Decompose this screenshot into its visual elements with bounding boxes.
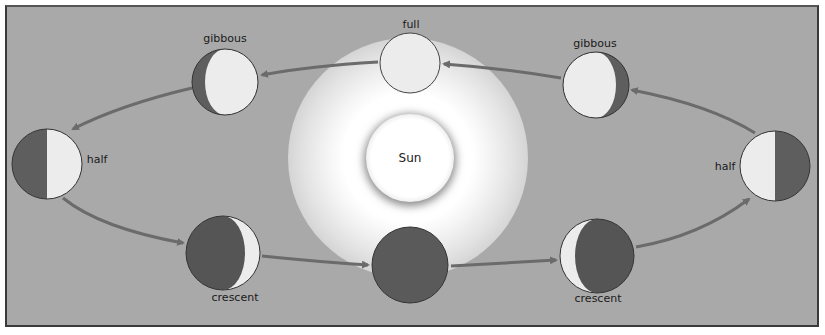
arrow-crescent-left-to-new <box>262 256 368 265</box>
sun-label: Sun <box>399 151 422 165</box>
label-crescent-right: crescent <box>575 292 622 305</box>
label-half-right: half <box>715 160 736 173</box>
label-gibbous-right: gibbous <box>573 37 616 50</box>
moon-half-right <box>740 131 810 201</box>
arrow-half-left-to-crescent-left <box>63 198 183 243</box>
arrow-full-to-gibbous-left <box>262 62 378 75</box>
moon-gibbous-left <box>192 49 258 115</box>
orbit-diagram <box>0 0 825 335</box>
arrow-new-to-crescent-right <box>451 260 556 266</box>
moon-crescent-right <box>560 219 634 293</box>
arrow-gibbous-left-to-half-left <box>73 88 192 129</box>
arrow-gibbous-right-to-full <box>444 64 561 78</box>
label-full: full <box>403 18 420 31</box>
label-half-left: half <box>87 153 108 166</box>
moon-full <box>380 33 440 93</box>
moon-new <box>372 227 448 303</box>
moon-half-left <box>12 129 82 199</box>
moon-gibbous-right <box>563 52 629 118</box>
arrow-half-right-to-gibbous-right <box>632 90 755 133</box>
arrow-crescent-right-to-half-right <box>636 199 749 247</box>
label-gibbous-left: gibbous <box>203 32 246 45</box>
moon-crescent-left <box>186 216 260 290</box>
label-crescent-left: crescent <box>212 291 259 304</box>
